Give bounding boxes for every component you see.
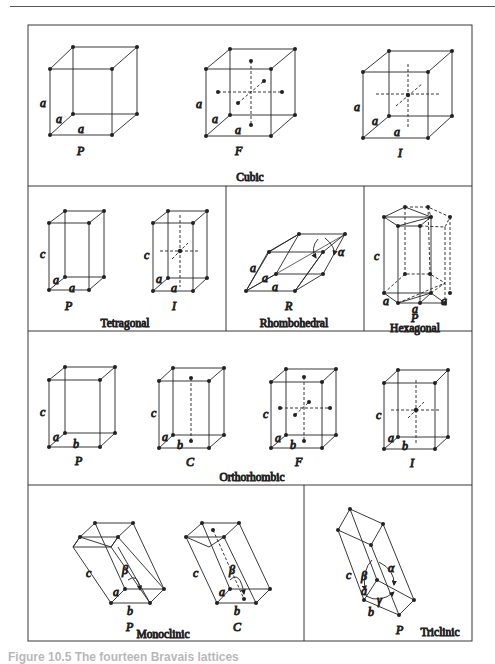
angle-label-beta: β	[360, 569, 367, 583]
triclinic-p-cell	[336, 507, 416, 617]
figure-caption: Figure 10.5 The fourteen Bravais lattice…	[8, 650, 239, 664]
edge-label: a	[219, 585, 225, 599]
edge-label: a	[212, 112, 218, 126]
bravais-lattices-figure: a a a P a a a F a a a I Cubic	[0, 0, 495, 664]
monoclinic-p-cell	[73, 521, 166, 605]
edge-label: a	[262, 271, 268, 285]
edge-label: a	[383, 294, 389, 308]
edge-label: a	[53, 273, 59, 287]
edge-label: a	[372, 114, 378, 128]
edge-label: b	[127, 604, 133, 618]
edge-label: a	[272, 280, 278, 294]
edge-label: c	[346, 568, 352, 582]
lattice-label-cubic-i: I	[397, 146, 403, 160]
edge-label: b	[73, 437, 79, 451]
hexagonal-p-cell	[382, 205, 452, 305]
lattice-label-orthorhombic-i: I	[409, 456, 415, 470]
lattice-label-orthorhombic-p: P	[74, 454, 83, 468]
edge-label: b	[402, 439, 408, 453]
edge-label: a	[113, 585, 119, 599]
edge-label: a	[162, 430, 168, 444]
edge-label: b	[234, 604, 240, 618]
edge-label: a	[441, 294, 447, 308]
system-label-rhombohedral: Rhombohedral	[260, 317, 328, 329]
lattice-label-triclinic-p: P	[395, 623, 404, 637]
angle-label-alpha: α	[388, 561, 395, 575]
system-label-tetragonal: Tetragonal	[100, 317, 149, 330]
edge-label: c	[151, 406, 157, 420]
edge-label: c	[86, 566, 92, 580]
edge-label: a	[354, 100, 360, 114]
lattice-label-tetragonal-p: P	[64, 299, 73, 313]
monoclinic-c-cell	[184, 521, 272, 605]
edge-label: a	[40, 96, 46, 110]
edge-label: b	[290, 438, 296, 452]
edge-label: a	[78, 122, 84, 136]
angle-label-beta: β	[228, 563, 235, 577]
edge-label: a	[156, 272, 162, 286]
angle-label-gamma: γ	[377, 593, 382, 607]
system-label-cubic: Cubic	[236, 171, 263, 183]
edge-label: a	[250, 261, 256, 275]
edge-label: a	[388, 431, 394, 445]
edge-label: c	[144, 248, 150, 262]
edge-label: a	[394, 125, 400, 139]
lattice-label-orthorhombic-f: F	[294, 455, 303, 469]
edge-label: c	[193, 566, 199, 580]
lattice-label-cubic-f: F	[234, 144, 243, 158]
edge-label: a	[235, 123, 241, 137]
lattice-label-tetragonal-i: I	[171, 299, 177, 313]
edge-label: a	[361, 584, 367, 598]
edge-label: c	[40, 247, 46, 261]
edge-label: a	[275, 431, 281, 445]
edge-label: a	[69, 281, 75, 295]
edge-label: b	[177, 438, 183, 452]
system-label-triclinic: Triclinic	[420, 626, 459, 638]
edge-label: a	[171, 281, 177, 295]
edge-label: b	[368, 605, 374, 619]
system-label-orthorhombic: Orthorhombic	[219, 471, 284, 483]
angle-label-alpha: α	[338, 245, 345, 259]
lattice-label-monoclinic-c: C	[233, 620, 242, 634]
edge-label: c	[263, 407, 269, 421]
system-label-hexagonal: Hexagonal	[390, 322, 440, 335]
system-label-monoclinic: Monoclinic	[136, 628, 189, 640]
lattice-label-monoclinic-p: P	[125, 620, 134, 634]
edge-label: c	[376, 408, 382, 422]
angle-label-beta: β	[121, 563, 128, 577]
lattice-label-rhombohedral-r: R	[284, 299, 293, 313]
lattice-label-cubic-p: P	[76, 144, 85, 158]
edge-label: a	[56, 112, 62, 126]
rhombohedral-r-cell	[244, 232, 347, 293]
lattice-label-orthorhombic-c: C	[186, 455, 195, 469]
edge-label: c	[40, 405, 46, 419]
edge-label: c	[374, 249, 380, 263]
edge-label: a	[53, 430, 59, 444]
edge-label: a	[196, 97, 202, 111]
